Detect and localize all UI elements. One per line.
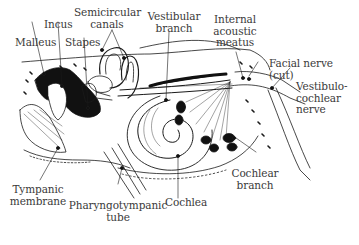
label-internal-line1: Internal — [210, 14, 260, 26]
label-pharyngo-line2: tube — [68, 212, 168, 224]
label-facial-nerve: Facial nerve (cut) — [269, 58, 333, 81]
label-semicircular-line2: canals — [74, 19, 140, 31]
label-cochlea: Cochlea — [165, 197, 207, 209]
label-vestibular-branch: Vestibular branch — [146, 11, 202, 34]
label-tympanic-line2: membrane — [8, 196, 68, 208]
label-semicircular-canals: Semicircular canals — [74, 7, 140, 30]
label-vestibular-line1: Vestibular — [146, 11, 202, 23]
label-cochlea-text: Cochlea — [165, 196, 207, 208]
label-vestibulocochlear-nerve: Vestibulo- cochlear nerve — [296, 81, 348, 116]
label-malleus: Malleus — [15, 37, 56, 49]
label-cochlear-branch-line2: branch — [230, 180, 280, 192]
label-internal-line3: meatus — [210, 37, 260, 49]
label-internal-acoustic-meatus: Internal acoustic meatus — [210, 14, 260, 49]
label-incus: Incus — [44, 19, 72, 31]
label-semicircular-line1: Semicircular — [74, 7, 140, 19]
label-cochlear-branch-line1: Cochlear — [230, 168, 280, 180]
label-facial-line1: Facial nerve — [269, 58, 333, 70]
label-tympanic-membrane: Tympanic membrane — [8, 184, 68, 207]
ear-anatomy-diagram: Malleus Incus Stapes Semicircular canals… — [0, 0, 359, 245]
label-stapes-text: Stapes — [65, 36, 100, 48]
bone-outline-upper — [22, 49, 270, 70]
label-stapes: Stapes — [65, 37, 100, 49]
label-vestibulo-line3: nerve — [296, 104, 348, 116]
label-pharyngo-line1: Pharyngotympanic — [68, 200, 168, 212]
label-malleus-text: Malleus — [15, 36, 56, 48]
label-vestibulo-line1: Vestibulo- — [296, 81, 348, 93]
label-vestibular-line2: branch — [146, 23, 202, 35]
label-tympanic-line1: Tympanic — [8, 184, 68, 196]
label-incus-text: Incus — [44, 18, 72, 30]
label-cochlear-branch: Cochlear branch — [230, 168, 280, 191]
label-pharyngotympanic-tube: Pharyngotympanic tube — [68, 200, 168, 223]
